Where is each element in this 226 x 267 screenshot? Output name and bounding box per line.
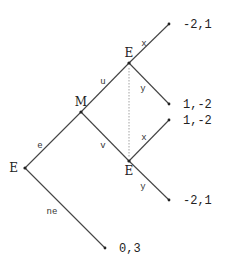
- decision-node-dot: [127, 159, 130, 162]
- tree-nodes: EMEE: [9, 46, 133, 178]
- edge-y: [129, 63, 169, 104]
- terminal-node-dot: [168, 119, 171, 122]
- decision-node-dot: [79, 110, 82, 113]
- decision-node-dot: [127, 61, 130, 64]
- edge-label: ne: [47, 207, 58, 217]
- player-label: E: [125, 46, 134, 60]
- edge-ne: [25, 168, 105, 248]
- terminal-node-dot: [168, 199, 171, 202]
- terminal-nodes: -2,11,-21,-2-2,10,3: [104, 18, 212, 256]
- edge-label: x: [141, 39, 146, 49]
- edge-label: e: [37, 141, 42, 151]
- player-label: M: [75, 95, 87, 109]
- edge-label: y: [140, 182, 146, 192]
- game-tree: eneuvxyxy EMEE -2,11,-21,-2-2,10,3: [0, 0, 226, 267]
- terminal-node-dot: [168, 23, 171, 26]
- edge-y: [129, 161, 169, 200]
- tree-edges: eneuvxyxy: [25, 24, 169, 248]
- edge-e: [25, 112, 81, 168]
- edge-label: u: [100, 77, 105, 87]
- payoff-label: 1,-2: [183, 98, 212, 112]
- payoff-label: -2,1: [183, 18, 212, 32]
- player-label: E: [9, 161, 18, 175]
- terminal-node-dot: [104, 247, 107, 250]
- edge-u: [81, 63, 129, 112]
- edge-label: x: [141, 133, 146, 143]
- edge-label: y: [140, 84, 146, 94]
- edge-label: v: [100, 141, 106, 151]
- decision-node-dot: [23, 166, 26, 169]
- terminal-node-dot: [168, 103, 171, 106]
- payoff-label: 1,-2: [183, 114, 212, 128]
- payoff-label: 0,3: [119, 242, 141, 256]
- player-label: E: [125, 164, 134, 178]
- payoff-label: -2,1: [183, 194, 212, 208]
- edge-x: [129, 24, 169, 63]
- edge-x: [129, 120, 169, 161]
- edge-v: [81, 112, 129, 161]
